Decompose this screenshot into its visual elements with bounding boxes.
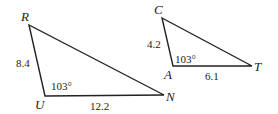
triangle-run: R U N 8.4 12.2 103° (16, 9, 176, 112)
vertex-label-r: R (20, 9, 29, 24)
vertex-label-c: C (154, 2, 163, 17)
similar-triangles-diagram: R U N 8.4 12.2 103° C A T 4.2 6.1 103° (0, 0, 278, 114)
vertex-label-n: N (165, 89, 176, 104)
vertex-label-a: A (163, 67, 172, 82)
angle-label-u: 103° (51, 80, 72, 92)
angle-label-a: 103° (175, 53, 196, 65)
side-label-ru: 8.4 (16, 57, 30, 69)
side-label-un: 12.2 (90, 100, 109, 112)
vertex-label-u: U (35, 97, 46, 112)
triangle-run-shape (29, 25, 164, 96)
diagram-canvas: R U N 8.4 12.2 103° C A T 4.2 6.1 103° (0, 0, 278, 114)
vertex-label-t: T (254, 59, 262, 74)
side-label-ca: 4.2 (147, 38, 161, 50)
side-label-at: 6.1 (205, 70, 219, 82)
triangle-cat: C A T 4.2 6.1 103° (147, 2, 262, 82)
